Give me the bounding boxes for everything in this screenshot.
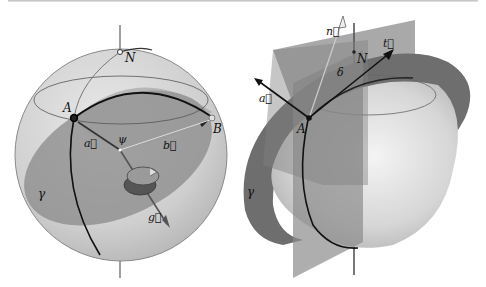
label-vector-g: g⃗ xyxy=(148,211,162,224)
arrowhead-n xyxy=(339,16,346,28)
label-n: N xyxy=(356,52,368,66)
label-a: A xyxy=(62,101,72,115)
left-sphere-diagram: N A B a⃗ b⃗ ψ g⃗ γ xyxy=(0,0,243,287)
label-delta: δ xyxy=(337,66,344,79)
label-a: A xyxy=(296,122,306,136)
point-n xyxy=(118,50,123,55)
point-a xyxy=(71,115,78,122)
label-vector-a: a⃗ xyxy=(259,92,272,105)
label-gamma: γ xyxy=(38,187,46,201)
right-sphere-diagram: n⃗ N t⃗ δ a⃗ A γ xyxy=(243,0,486,287)
rotation-cylinder-top xyxy=(127,167,159,185)
center-point xyxy=(118,148,121,151)
arrowhead-a xyxy=(254,78,263,86)
label-vector-t: t⃗ xyxy=(383,37,394,50)
point-n xyxy=(352,50,356,54)
label-b: B xyxy=(212,122,222,136)
point-a xyxy=(306,115,312,121)
label-n: N xyxy=(124,51,136,65)
label-vector-n: n⃗ xyxy=(326,25,340,38)
label-psi: ψ xyxy=(118,133,127,146)
label-vector-b: b⃗ xyxy=(163,139,177,152)
label-gamma: γ xyxy=(247,185,255,199)
label-vector-a: a⃗ xyxy=(84,137,97,150)
point-b xyxy=(209,115,215,121)
